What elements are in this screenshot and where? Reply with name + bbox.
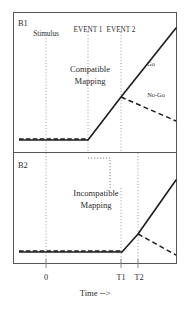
x-axis-label: Time -->: [80, 288, 111, 298]
condition-label-b2-line2: Mapping: [80, 200, 112, 210]
condition-label-b1-line2: Mapping: [74, 76, 106, 86]
event-label-stimulus: Stimulus: [33, 30, 59, 38]
panel-label-b1: B1: [18, 19, 28, 28]
series-label-go-b1: Go: [147, 60, 155, 67]
condition-label-b1-line1: Compatible: [70, 64, 110, 74]
series-label-nogo-b1: No-Go: [147, 91, 165, 98]
figure-container: B1 Stimulus EVENT 1 EVENT 2 Compatible M…: [0, 0, 190, 309]
x-tick-label-0: 0: [44, 273, 48, 282]
condition-label-b2-line1: Incompatible: [73, 188, 119, 198]
event-label-event-2: EVENT 2: [107, 26, 136, 34]
x-tick-label-t2: T2: [134, 273, 143, 282]
event-label-event-1: EVENT 1: [74, 26, 103, 34]
panel-label-b2: B2: [18, 161, 28, 170]
x-tick-label-t1: T1: [116, 273, 125, 282]
two-panel-response-activation-figure: B1 Stimulus EVENT 1 EVENT 2 Compatible M…: [0, 0, 190, 309]
